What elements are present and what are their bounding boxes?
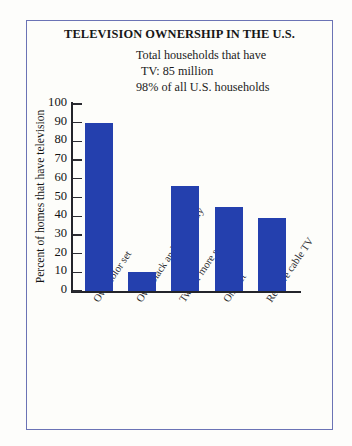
- bar-0: [85, 123, 113, 291]
- annotation-line-2: TV: 85 million: [136, 63, 332, 79]
- y-tick-label-80: 80: [31, 132, 67, 147]
- y-tick-label-40: 40: [31, 207, 67, 222]
- chart-title: TELEVISION OWNERSHIP IN THE U.S.: [26, 27, 333, 42]
- y-tick-label-20: 20: [31, 245, 67, 260]
- annotation-line-3: 98% of all U.S. households: [136, 79, 332, 95]
- y-tick-label-50: 50: [31, 189, 67, 204]
- bar-4: [258, 218, 286, 291]
- y-tick-label-90: 90: [31, 114, 67, 129]
- y-tick-label-30: 30: [31, 226, 67, 241]
- annotation-line-1: Total households that have: [136, 47, 332, 63]
- bar-3: [215, 207, 243, 291]
- bar-1: [128, 272, 156, 291]
- bar-2: [171, 186, 199, 291]
- y-tick-label-10: 10: [31, 263, 67, 278]
- annotation-block: Total households that have TV: 85 millio…: [136, 47, 332, 96]
- y-tick-label-70: 70: [31, 151, 67, 166]
- y-tick-label-0: 0: [31, 282, 67, 297]
- y-tick-label-60: 60: [31, 170, 67, 185]
- y-tick-label-100: 100: [31, 95, 67, 110]
